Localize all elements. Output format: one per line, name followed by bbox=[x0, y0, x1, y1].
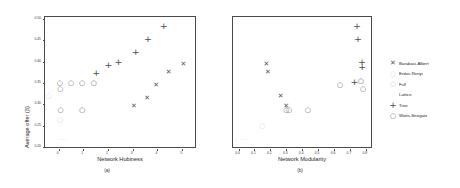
data-point-circle-marker: ○ bbox=[258, 122, 267, 131]
x-tick-mark bbox=[157, 149, 158, 151]
x-tick-label: 0.3 bbox=[283, 151, 288, 155]
y-tick-mark bbox=[43, 83, 45, 84]
data-point-circle-marker: ○ bbox=[56, 106, 65, 115]
panel-b: Average offer (β) ✕✕✕✕+++++○○○○○○○○···· … bbox=[214, 0, 386, 188]
y-axis-title-a: Average offer (β) bbox=[24, 106, 30, 148]
y-tick-label: 0.30 bbox=[34, 101, 41, 105]
legend-item-barabasi-albert[interactable]: ✕Barabasi-Albert bbox=[388, 58, 460, 69]
legend-item-full[interactable]: ○Full bbox=[388, 79, 460, 90]
data-point-dot-marker: · bbox=[62, 136, 71, 145]
dot-marker: · bbox=[388, 91, 398, 99]
legend-label: Watts-Strogatz bbox=[398, 113, 427, 118]
data-point-x-marker: ✕ bbox=[276, 91, 285, 100]
x-tick-mark bbox=[182, 149, 183, 151]
data-point-plus-marker: + bbox=[144, 34, 153, 43]
data-point-circle-marker: ○ bbox=[89, 79, 98, 88]
legend-label: Tree bbox=[398, 103, 408, 108]
data-point-x-marker: ✕ bbox=[164, 68, 173, 77]
data-point-x-marker: ✕ bbox=[129, 102, 138, 111]
circle-marker: ○ bbox=[388, 70, 398, 78]
data-point-plus-marker: + bbox=[104, 59, 113, 68]
x-marker: ✕ bbox=[388, 59, 398, 67]
x-tick-label: 0.4 bbox=[299, 151, 304, 155]
plot-area-b: ✕✕✕✕+++++○○○○○○○○···· bbox=[232, 16, 372, 148]
data-point-circle-marker: ○ bbox=[336, 81, 345, 90]
x-axis-title-b: Network Modularity bbox=[232, 156, 372, 162]
x-tick-mark bbox=[59, 149, 60, 151]
legend-label: Erdos-Renyi bbox=[398, 71, 423, 76]
data-point-circle-marker: ○ bbox=[78, 106, 87, 115]
x-tick-label: 1 bbox=[81, 151, 83, 155]
x-tick-label: 0.8 bbox=[362, 151, 367, 155]
legend-label: Full bbox=[398, 82, 406, 87]
x-tick-label: 5 bbox=[180, 151, 182, 155]
data-point-x-marker: ✕ bbox=[179, 59, 188, 68]
x-tick-label: 2 bbox=[106, 151, 108, 155]
data-point-circle-marker: ○ bbox=[78, 79, 87, 88]
data-point-circle-marker: ○ bbox=[56, 85, 65, 94]
x-tick-mark bbox=[83, 149, 84, 151]
data-point-circle-marker: ○ bbox=[285, 106, 294, 115]
y-tick-mark bbox=[43, 104, 45, 105]
data-point-x-marker: ✕ bbox=[264, 68, 273, 77]
x-tick-label: 0 bbox=[57, 151, 59, 155]
data-point-dot-marker: · bbox=[57, 122, 66, 131]
data-point-circle-marker: ○ bbox=[358, 85, 367, 94]
legend: ✕Barabasi-Albert○Erdos-Renyi○Full·Lattic… bbox=[388, 58, 460, 121]
x-tick-label: 3 bbox=[131, 151, 133, 155]
y-tick-mark bbox=[43, 126, 45, 127]
figure-container: Average offer (β) ✕✕✕✕✕++++++○○○○○○○○○○○… bbox=[0, 0, 460, 188]
data-point-plus-marker: + bbox=[131, 47, 140, 56]
x-tick-label: 0.7 bbox=[347, 151, 352, 155]
data-point-dot-marker: · bbox=[246, 136, 255, 145]
x-tick-label: 0.5 bbox=[315, 151, 320, 155]
data-point-x-marker: ✕ bbox=[143, 93, 152, 102]
y-tick-label: 0.50 bbox=[34, 16, 41, 20]
x-tick-label: 4 bbox=[156, 151, 158, 155]
y-tick-label: 0.40 bbox=[34, 59, 41, 63]
legend-label: Lattice bbox=[398, 92, 412, 97]
data-point-plus-marker: + bbox=[353, 21, 362, 30]
x-tick-label: 0.2 bbox=[267, 151, 272, 155]
legend-item-tree[interactable]: +Tree bbox=[388, 100, 460, 111]
circle-marker: ○ bbox=[388, 112, 398, 120]
data-point-circle-marker: ○ bbox=[66, 79, 75, 88]
legend-item-erdos-renyi[interactable]: ○Erdos-Renyi bbox=[388, 69, 460, 80]
x-tick-mark bbox=[133, 149, 134, 151]
legend-label: Barabasi-Albert bbox=[398, 61, 429, 66]
data-point-circle-marker: ○ bbox=[303, 106, 312, 115]
caption-b: (b) bbox=[214, 168, 386, 173]
data-point-circle-marker: ○ bbox=[44, 91, 53, 100]
y-tick-mark bbox=[43, 62, 45, 63]
data-point-plus-marker: + bbox=[114, 57, 123, 66]
legend-item-lattice[interactable]: ·Lattice bbox=[388, 90, 460, 101]
y-tick-mark bbox=[43, 19, 45, 20]
plus-marker: + bbox=[388, 100, 398, 110]
data-point-plus-marker: + bbox=[92, 68, 101, 77]
y-tick-label: 0.35 bbox=[34, 80, 41, 84]
data-point-circle-marker: ○ bbox=[355, 76, 364, 85]
legend-item-watts-strogatz[interactable]: ○Watts-Strogatz bbox=[388, 111, 460, 122]
y-tick-mark bbox=[43, 40, 45, 41]
x-tick-label: 0.0 bbox=[235, 151, 240, 155]
x-tick-label: 0.1 bbox=[251, 151, 256, 155]
y-tick-label: 0.25 bbox=[34, 123, 41, 127]
caption-a: (a) bbox=[0, 168, 214, 173]
data-point-x-marker: ✕ bbox=[152, 81, 161, 90]
data-point-plus-marker: + bbox=[358, 61, 367, 70]
x-axis-title-a: Network Hubiness bbox=[44, 156, 196, 162]
y-tick-label: 0.20 bbox=[34, 144, 41, 148]
panel-a: Average offer (β) ✕✕✕✕✕++++++○○○○○○○○○○○… bbox=[0, 0, 214, 188]
y-tick-label: 0.45 bbox=[34, 37, 41, 41]
data-point-plus-marker: + bbox=[353, 34, 362, 43]
x-tick-mark bbox=[108, 149, 109, 151]
y-tick-mark bbox=[43, 147, 45, 148]
circle-marker: ○ bbox=[388, 80, 398, 88]
plot-area-a: ✕✕✕✕✕++++++○○○○○○○○○○○···· bbox=[44, 16, 196, 148]
data-point-plus-marker: + bbox=[159, 21, 168, 30]
x-tick-label: 0.6 bbox=[331, 151, 336, 155]
